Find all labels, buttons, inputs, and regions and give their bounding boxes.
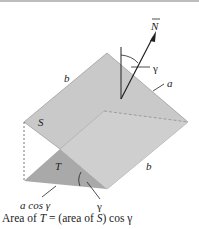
label-gamma-top: γ bbox=[152, 62, 158, 74]
label-b-right: b bbox=[146, 160, 152, 172]
label-n: N bbox=[150, 20, 159, 32]
diagram: N γ a b b S T a cos γ γ Area of T = (are… bbox=[0, 0, 199, 229]
angle-arc-top bbox=[121, 55, 138, 63]
projection-diagram: N γ a b b S T a cos γ γ bbox=[0, 0, 199, 229]
label-a: a bbox=[167, 77, 173, 89]
arrowhead-icon bbox=[150, 31, 156, 42]
label-t: T bbox=[55, 160, 62, 172]
caption-text-1: Area of bbox=[2, 212, 40, 224]
a-pointer bbox=[153, 84, 164, 91]
label-gamma-bottom: γ bbox=[96, 200, 102, 212]
caption-text-2: = (area of bbox=[46, 212, 97, 224]
label-a-cos-gamma: a cos γ bbox=[20, 199, 51, 211]
label-s: S bbox=[38, 116, 44, 128]
caption: Area of T = (area of S) cos γ bbox=[2, 212, 132, 224]
acos-pointer bbox=[42, 186, 56, 197]
caption-text-3: ) cos γ bbox=[102, 212, 132, 224]
label-b-top: b bbox=[64, 72, 70, 84]
